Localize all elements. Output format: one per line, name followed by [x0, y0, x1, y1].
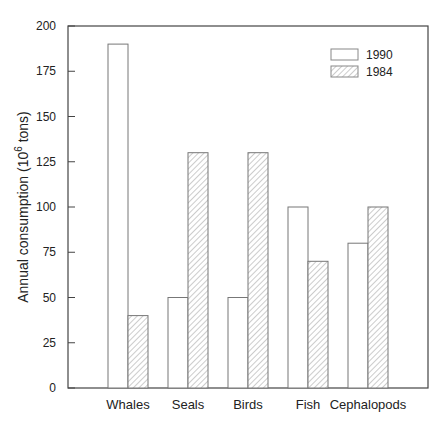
- bar-chart: 0255075100125150175200Annual consumption…: [0, 0, 443, 425]
- bar-whales-1984: [128, 316, 148, 388]
- y-axis-label: Annual consumption (106 tons): [13, 111, 31, 303]
- y-tick-label: 75: [43, 245, 57, 259]
- bar-birds-1984: [248, 153, 268, 388]
- legend-label: 1990: [366, 48, 393, 62]
- y-tick-label: 25: [43, 336, 57, 350]
- x-tick-label: Whales: [106, 397, 150, 412]
- bar-cephalopods-1990: [348, 243, 368, 388]
- bar-whales-1990: [108, 44, 128, 388]
- x-tick-label: Fish: [296, 397, 321, 412]
- y-tick-label: 100: [36, 200, 56, 214]
- y-tick-label: 150: [36, 110, 56, 124]
- bar-seals-1984: [188, 153, 208, 388]
- y-tick-label: 0: [49, 381, 56, 395]
- bar-fish-1990: [288, 207, 308, 388]
- bar-cephalopods-1984: [368, 207, 388, 388]
- legend: 19901984: [331, 48, 393, 79]
- legend-swatch: [331, 66, 358, 77]
- y-tick-label: 125: [36, 155, 56, 169]
- bar-fish-1984: [308, 261, 328, 388]
- y-tick-label: 50: [43, 291, 57, 305]
- x-tick-label: Birds: [233, 397, 263, 412]
- x-tick-label: Seals: [172, 397, 205, 412]
- y-tick-label: 200: [36, 19, 56, 33]
- y-tick-label: 175: [36, 64, 56, 78]
- chart: 0255075100125150175200Annual consumption…: [0, 0, 443, 425]
- bar-birds-1990: [228, 298, 248, 389]
- bar-seals-1990: [168, 298, 188, 389]
- legend-swatch: [331, 49, 358, 60]
- x-tick-label: Cephalopods: [330, 397, 407, 412]
- legend-label: 1984: [366, 65, 393, 79]
